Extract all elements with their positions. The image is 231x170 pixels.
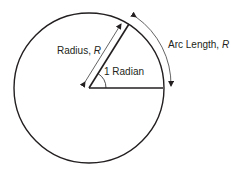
radius-line bbox=[89, 24, 129, 88]
radius-label: Radius, R bbox=[57, 45, 101, 56]
arc-length-label: Arc Length, R bbox=[168, 39, 229, 50]
radian-diagram: Radius, R 1 Radian Arc Length, R bbox=[0, 0, 231, 170]
angle-label: 1 Radian bbox=[104, 66, 144, 77]
